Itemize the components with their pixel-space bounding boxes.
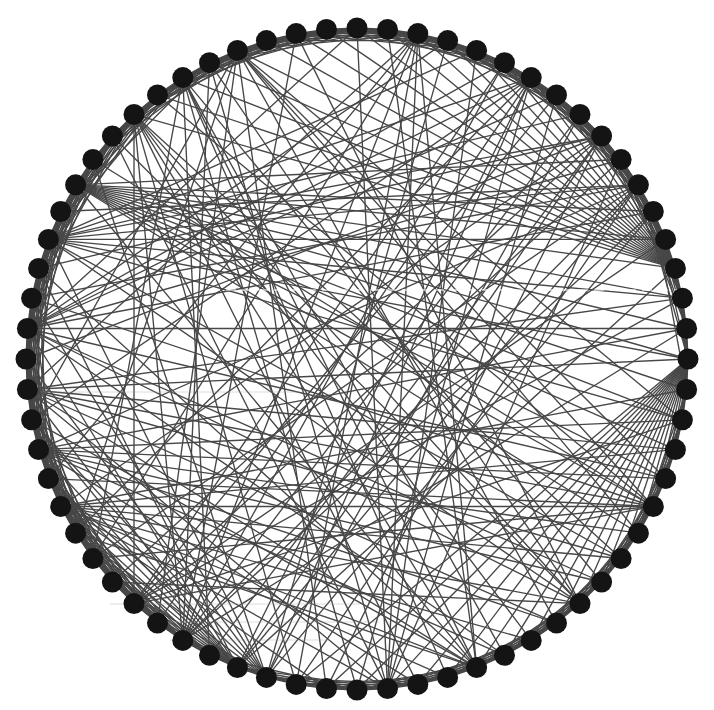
graph-node xyxy=(678,349,699,370)
graph-node xyxy=(591,126,612,147)
graph-node xyxy=(286,674,307,695)
graph-node xyxy=(38,468,59,489)
network-graph xyxy=(0,0,714,710)
graph-node xyxy=(546,84,567,105)
graph-node xyxy=(227,40,248,61)
graph-node xyxy=(102,572,123,593)
graph-node xyxy=(628,523,649,544)
edges-layer xyxy=(26,28,688,690)
graph-node xyxy=(494,52,515,73)
graph-node xyxy=(316,678,337,699)
graph-node xyxy=(172,630,193,651)
graph-node xyxy=(28,439,49,460)
graph-node xyxy=(570,104,591,125)
graph-node xyxy=(199,52,220,73)
graph-node xyxy=(82,149,103,170)
graph-node xyxy=(407,674,428,695)
graph-edge xyxy=(183,34,296,641)
graph-edge xyxy=(448,359,688,677)
graph-edge xyxy=(183,63,505,641)
graph-edge xyxy=(27,212,653,329)
graph-node xyxy=(347,18,368,39)
graph-node xyxy=(665,258,686,279)
graph-node xyxy=(377,678,398,699)
graph-node xyxy=(466,40,487,61)
graph-node xyxy=(521,630,542,651)
graph-node xyxy=(286,23,307,44)
graph-edge xyxy=(183,78,477,668)
graph-node xyxy=(50,201,71,222)
graph-node xyxy=(546,613,567,634)
graph-node xyxy=(591,572,612,593)
graph-edge xyxy=(27,298,682,389)
graph-edge xyxy=(134,63,505,604)
graph-node xyxy=(611,149,632,170)
graph-node xyxy=(147,613,168,634)
graph-node xyxy=(570,593,591,614)
graph-node xyxy=(672,409,693,430)
graph-node xyxy=(65,174,86,195)
graph-node xyxy=(437,667,458,688)
graph-node xyxy=(665,439,686,460)
graph-edge xyxy=(602,359,688,582)
graph-node xyxy=(28,258,49,279)
graph-node xyxy=(676,379,697,400)
graph-node xyxy=(21,288,42,309)
graph-node xyxy=(643,496,664,517)
graph-node xyxy=(50,496,71,517)
graph-node xyxy=(643,201,664,222)
graph-node xyxy=(124,104,145,125)
graph-node xyxy=(102,126,123,147)
graph-node xyxy=(628,174,649,195)
graph-node xyxy=(676,318,697,339)
graph-node xyxy=(377,19,398,40)
graph-node xyxy=(494,645,515,666)
graph-node xyxy=(256,30,277,51)
graph-node xyxy=(65,523,86,544)
graph-node xyxy=(199,645,220,666)
graph-node xyxy=(521,67,542,88)
graph-node xyxy=(82,548,103,569)
graph-node xyxy=(407,23,428,44)
graph-node xyxy=(256,667,277,688)
graph-node xyxy=(17,379,38,400)
graph-node xyxy=(466,657,487,678)
graph-node xyxy=(17,318,38,339)
graph-edge xyxy=(388,95,557,689)
graph-node xyxy=(16,349,37,370)
graph-node xyxy=(316,19,337,40)
graph-node xyxy=(655,229,676,250)
graph-node xyxy=(147,84,168,105)
graph-node xyxy=(21,409,42,430)
graph-node xyxy=(124,593,145,614)
graph-node xyxy=(172,67,193,88)
graph-edge xyxy=(557,359,689,623)
graph-node xyxy=(227,657,248,678)
graph-node xyxy=(38,229,59,250)
graph-node xyxy=(611,548,632,569)
graph-node xyxy=(655,468,676,489)
graph-node xyxy=(672,288,693,309)
graph-node xyxy=(347,680,368,701)
graph-edge xyxy=(418,34,676,269)
graph-edge xyxy=(61,507,327,689)
graph-node xyxy=(437,30,458,51)
